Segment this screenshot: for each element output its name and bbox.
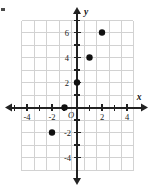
y-axis-label: y	[83, 7, 89, 17]
y-tick-label: -4	[64, 153, 72, 163]
data-point	[49, 129, 55, 135]
coordinate-grid-svg: -4 -2 2 4 6 4 2 -2 -4 O x y	[0, 0, 153, 186]
data-point	[74, 79, 80, 85]
x-axis-label: x	[136, 92, 142, 102]
x-tick-label: 2	[100, 112, 104, 122]
y-tick-label: -2	[64, 128, 71, 138]
data-point	[61, 104, 67, 110]
x-tick-label: -2	[48, 112, 55, 122]
x-tick-label: -4	[23, 112, 31, 122]
origin-label: O	[68, 110, 74, 120]
y-tick-label: 6	[65, 28, 69, 38]
y-tick-label: 2	[65, 78, 69, 88]
coordinate-plane-figure: -4 -2 2 4 6 4 2 -2 -4 O x y	[0, 0, 153, 186]
data-point	[86, 54, 92, 60]
data-point	[99, 29, 105, 35]
